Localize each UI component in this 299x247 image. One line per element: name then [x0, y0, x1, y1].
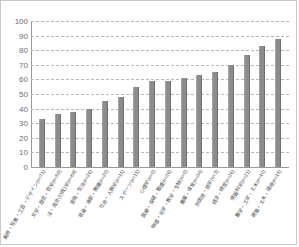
x-label-slot: 経済・経営(n=26)	[223, 168, 239, 246]
x-label-slot: 外国語・語学(n=3)	[207, 168, 223, 246]
plot-area: 1009080706050403020100	[31, 21, 289, 167]
x-label-slot: 社会・人類学(n=11)	[113, 168, 129, 246]
bar-slot	[129, 21, 145, 167]
bar-slot	[207, 21, 223, 167]
bar[interactable]	[70, 112, 76, 167]
y-tick-label: 40	[19, 106, 28, 114]
bar[interactable]	[133, 87, 139, 167]
bar[interactable]	[149, 81, 155, 167]
bar[interactable]	[39, 119, 45, 167]
y-tick-label: 60	[19, 76, 28, 84]
bar-slot	[176, 21, 192, 167]
bar[interactable]	[212, 72, 218, 167]
bar[interactable]	[165, 81, 171, 167]
bar[interactable]	[259, 46, 265, 167]
y-tick-label: 30	[19, 120, 28, 128]
bar[interactable]	[275, 39, 281, 167]
y-tick-label: 50	[19, 91, 28, 99]
chart-container: 1009080706050403020100 美術・写真・工芸・デザイン(n=7…	[0, 0, 297, 245]
bar-slot	[144, 21, 160, 167]
bar[interactable]	[86, 109, 92, 167]
y-tick-label: 20	[19, 135, 28, 143]
y-tick-label: 90	[19, 33, 28, 41]
bar[interactable]	[244, 55, 250, 167]
bar[interactable]	[228, 65, 234, 167]
x-label-slot: 物理・化学・数学・生物(n=9)	[176, 168, 192, 246]
bar-slot	[34, 21, 50, 167]
y-tick-label: 70	[19, 62, 28, 70]
bar-slot	[97, 21, 113, 167]
x-label-slot: スポーツ(n=11)	[129, 168, 145, 246]
x-label-slot: 農業・保育(n=34)	[192, 168, 208, 246]
bar[interactable]	[102, 101, 108, 167]
bar-slot	[223, 21, 239, 167]
bar-slot	[270, 21, 286, 167]
x-label-slot: 法・政治(行政)学(n=68)	[66, 168, 82, 246]
bar-slot	[239, 21, 255, 167]
bar[interactable]	[55, 114, 61, 167]
x-axis-labels: 美術・写真・工芸・デザイン(n=71)文学・歴史・哲学(n=59)法・政治(行政…	[31, 168, 289, 246]
bar[interactable]	[196, 75, 202, 167]
y-tick-label: 10	[19, 149, 28, 157]
bar-slot	[192, 21, 208, 167]
bar[interactable]	[181, 78, 187, 167]
bar-slot	[50, 21, 66, 167]
bar-slot	[113, 21, 129, 167]
bar-slot	[66, 21, 82, 167]
x-label-slot: 建築・土木・環境(n=15)	[270, 168, 286, 246]
bar-slot	[160, 21, 176, 167]
bar-slot	[255, 21, 271, 167]
y-tick-label: 0	[24, 164, 28, 172]
bar-slot	[81, 21, 97, 167]
y-tick-label: 100	[15, 18, 28, 26]
y-tick-label: 80	[19, 47, 28, 55]
bar[interactable]	[118, 97, 124, 167]
bar-series	[31, 21, 289, 167]
